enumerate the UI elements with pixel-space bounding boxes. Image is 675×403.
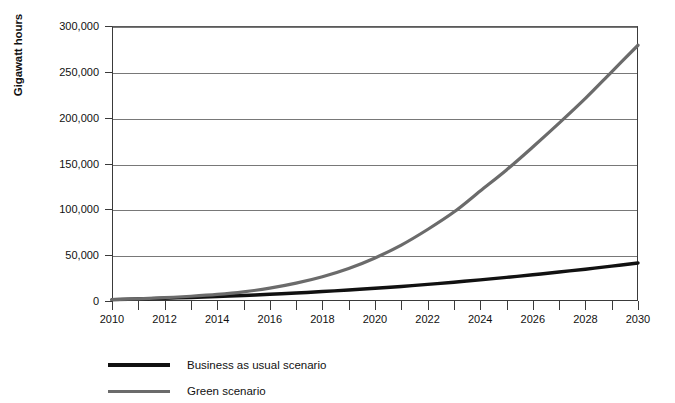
x-axis-tick-mark [559, 301, 560, 310]
x-axis-tick-mark [454, 301, 455, 310]
x-axis-tick-mark [480, 301, 481, 310]
series-group [112, 26, 638, 301]
x-axis-tick-mark [112, 301, 113, 310]
series-line [112, 45, 638, 299]
y-axis-title: Gigawatt hours [12, 0, 32, 120]
x-axis-tick-mark [638, 301, 639, 310]
x-axis-tick-mark [296, 301, 297, 310]
x-axis-tick-label: 2012 [135, 313, 195, 325]
y-axis-tick-label: 250,000 [19, 66, 99, 78]
legend-swatch-green-scenario [108, 390, 170, 393]
y-axis-tick-label: 50,000 [19, 249, 99, 261]
x-axis-tick-label: 2014 [187, 313, 247, 325]
y-axis-tick-label: 100,000 [19, 203, 99, 215]
x-axis-tick-label: 2024 [450, 313, 510, 325]
x-axis-tick-mark [191, 301, 192, 310]
x-axis-tick-mark [533, 301, 534, 310]
x-axis-tick-label: 2016 [240, 313, 300, 325]
x-axis-tick-label: 2026 [503, 313, 563, 325]
series-line [112, 263, 638, 300]
x-axis-tick-mark [270, 301, 271, 310]
x-axis-tick-mark [585, 301, 586, 310]
x-axis-tick-mark [375, 301, 376, 310]
legend-label-green-scenario: Green scenario [187, 385, 266, 397]
x-axis-tick-mark [401, 301, 402, 310]
x-axis-tick-mark [244, 301, 245, 310]
y-axis-tick-label: 0 [19, 295, 99, 307]
x-axis-tick-label: 2022 [398, 313, 458, 325]
x-axis-tick-label: 2018 [292, 313, 352, 325]
x-axis-tick-mark [165, 301, 166, 310]
x-axis-tick-mark [138, 301, 139, 310]
y-axis-tick-mark [105, 164, 112, 165]
legend-label-business-as-usual: Business as usual scenario [187, 359, 326, 371]
y-axis-tick-mark [105, 118, 112, 119]
y-axis-tick-mark [105, 301, 112, 302]
x-axis-tick-mark [612, 301, 613, 310]
x-axis-tick-label: 2020 [345, 313, 405, 325]
y-axis-tick-label: 150,000 [19, 158, 99, 170]
x-axis-tick-mark [322, 301, 323, 310]
y-axis-tick-label: 300,000 [19, 20, 99, 32]
chart-figure: Gigawatt hours 050,000100,000150,000200,… [0, 0, 675, 403]
x-axis-tick-label: 2010 [82, 313, 142, 325]
x-axis-tick-label: 2028 [555, 313, 615, 325]
y-axis-tick-label: 200,000 [19, 112, 99, 124]
x-axis-tick-mark [507, 301, 508, 310]
y-axis-tick-mark [105, 255, 112, 256]
y-axis-tick-mark [105, 72, 112, 73]
x-axis-tick-mark [428, 301, 429, 310]
x-axis-tick-mark [349, 301, 350, 310]
legend-swatch-business-as-usual [108, 363, 170, 367]
y-axis-tick-mark [105, 26, 112, 27]
x-axis-tick-label: 2030 [608, 313, 668, 325]
x-axis-tick-mark [217, 301, 218, 310]
legend-item-green-scenario: Green scenario [108, 378, 528, 403]
y-axis-tick-mark [105, 209, 112, 210]
legend-item-business-as-usual: Business as usual scenario [108, 352, 528, 378]
chart-legend: Business as usual scenario Green scenari… [108, 352, 528, 403]
